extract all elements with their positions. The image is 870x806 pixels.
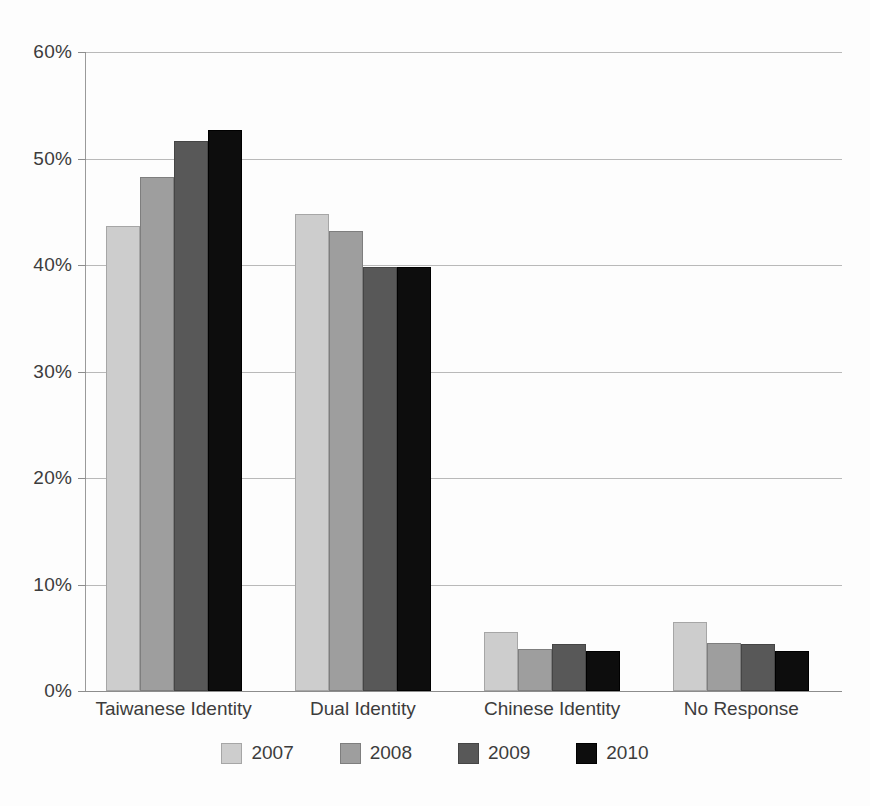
x-axis-label-taiwanese-identity: Taiwanese Identity xyxy=(95,698,251,720)
bar-2009-taiwanese-identity[interactable] xyxy=(174,141,208,691)
bar-2007-dual-identity[interactable] xyxy=(295,214,329,691)
legend-swatch-icon xyxy=(458,743,479,764)
y-axis-tick-label: 30% xyxy=(0,361,72,383)
x-axis-labels: Taiwanese IdentityDual IdentityChinese I… xyxy=(85,698,842,728)
legend-swatch-icon xyxy=(221,743,242,764)
legend-label: 2008 xyxy=(370,742,412,764)
legend-item-2008[interactable]: 2008 xyxy=(340,742,412,764)
y-axis-tick-label: 10% xyxy=(0,574,72,596)
legend-item-2007[interactable]: 2007 xyxy=(221,742,293,764)
x-axis-label-dual-identity: Dual Identity xyxy=(310,698,416,720)
y-axis-labels: 0%10%20%30%40%50%60% xyxy=(0,52,72,691)
legend-label: 2007 xyxy=(251,742,293,764)
bar-group xyxy=(484,52,620,691)
bar-2010-no-response[interactable] xyxy=(775,651,809,691)
gridline-0pct xyxy=(85,691,842,692)
legend-label: 2010 xyxy=(606,742,648,764)
y-axis-tick-label: 0% xyxy=(0,680,72,702)
chart-legend: 2007200820092010 xyxy=(0,742,870,764)
legend-swatch-icon xyxy=(576,743,597,764)
bar-2008-taiwanese-identity[interactable] xyxy=(140,177,174,691)
y-axis-tick xyxy=(78,478,86,479)
bar-2007-taiwanese-identity[interactable] xyxy=(106,226,140,691)
y-axis-tick-label: 20% xyxy=(0,467,72,489)
bar-2008-chinese-identity[interactable] xyxy=(518,649,552,691)
y-axis-tick xyxy=(78,372,86,373)
y-axis-tick-label: 60% xyxy=(0,41,72,63)
bar-2008-no-response[interactable] xyxy=(707,643,741,691)
y-axis-tick xyxy=(78,691,86,692)
bar-2007-no-response[interactable] xyxy=(673,622,707,691)
legend-item-2010[interactable]: 2010 xyxy=(576,742,648,764)
bar-2010-taiwanese-identity[interactable] xyxy=(208,130,242,691)
bar-2008-dual-identity[interactable] xyxy=(329,231,363,691)
bar-2007-chinese-identity[interactable] xyxy=(484,632,518,691)
bar-2009-no-response[interactable] xyxy=(741,644,775,691)
y-axis-tick xyxy=(78,585,86,586)
plot-area xyxy=(85,52,842,691)
bar-group xyxy=(673,52,809,691)
bar-2009-dual-identity[interactable] xyxy=(363,267,397,691)
bar-2010-dual-identity[interactable] xyxy=(397,267,431,691)
y-axis-tick-label: 40% xyxy=(0,254,72,276)
legend-label: 2009 xyxy=(488,742,530,764)
y-axis-tick xyxy=(78,159,86,160)
legend-swatch-icon xyxy=(340,743,361,764)
x-axis-label-chinese-identity: Chinese Identity xyxy=(484,698,620,720)
legend-item-2009[interactable]: 2009 xyxy=(458,742,530,764)
bar-chart: 0%10%20%30%40%50%60% Taiwanese IdentityD… xyxy=(0,0,870,806)
bar-2009-chinese-identity[interactable] xyxy=(552,644,586,691)
bar-group xyxy=(106,52,242,691)
bar-group xyxy=(295,52,431,691)
bar-2010-chinese-identity[interactable] xyxy=(586,651,620,691)
y-axis-tick xyxy=(78,265,86,266)
y-axis-tick xyxy=(78,52,86,53)
y-axis-tick-label: 50% xyxy=(0,148,72,170)
x-axis-label-no-response: No Response xyxy=(684,698,799,720)
